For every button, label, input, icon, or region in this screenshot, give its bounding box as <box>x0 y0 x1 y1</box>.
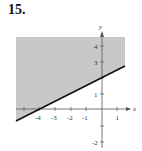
y-axis-label: y <box>98 23 103 31</box>
x-tick-label: -1 <box>82 114 88 122</box>
x-tick-label: -3 <box>51 114 57 122</box>
x-axis-arrow-icon <box>126 107 131 111</box>
y-axis-arrow-icon <box>100 31 104 37</box>
x-axis-label: x <box>132 105 137 113</box>
inequality-graph: x y -4 -3 -2 -1 1 4 3 1 -2 <box>0 0 142 151</box>
shaded-region <box>16 37 125 121</box>
x-tick-label: -2 <box>67 114 73 122</box>
x-tick-label: 1 <box>116 114 120 122</box>
y-tick-label: 4 <box>94 43 98 51</box>
x-tick-label: -4 <box>35 114 41 122</box>
y-tick-label: -2 <box>92 139 98 147</box>
y-tick-label: 1 <box>94 91 98 99</box>
y-tick-label: 3 <box>94 59 98 67</box>
